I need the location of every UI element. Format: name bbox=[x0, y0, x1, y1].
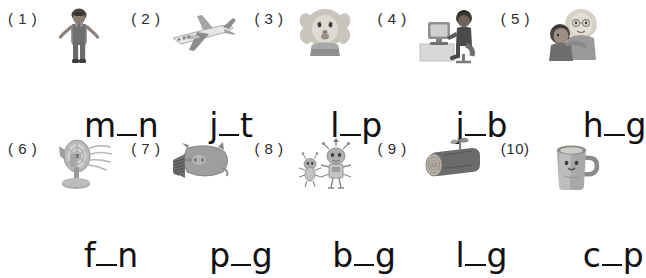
worksheet-row-1: ( 1 ) bbox=[0, 0, 616, 129]
word-prefix-10: c bbox=[583, 236, 601, 275]
word-blank-9[interactable] bbox=[465, 264, 485, 266]
word-prefix-9: l bbox=[456, 236, 465, 275]
word-6: fn bbox=[0, 196, 123, 278]
item-number-2: ( 2 ) bbox=[131, 11, 160, 26]
item-number-10: (10) bbox=[501, 141, 530, 156]
item-number-9: ( 9 ) bbox=[378, 141, 407, 156]
item-number-1: ( 1 ) bbox=[8, 11, 37, 26]
jet-icon bbox=[167, 4, 237, 68]
worksheet-item-10[interactable]: (10) cp bbox=[493, 130, 616, 259]
word-prefix-8: b bbox=[332, 236, 353, 275]
worksheet-item-2[interactable]: ( 2 ) jt bbox=[123, 0, 246, 129]
lion-face-icon bbox=[290, 4, 360, 68]
worksheet-item-8[interactable]: ( 8 ) bbox=[246, 130, 369, 259]
word-prefix-7: p bbox=[209, 236, 230, 275]
item-number-5: ( 5 ) bbox=[501, 11, 530, 26]
worksheet-item-3[interactable]: ( 3 ) bbox=[246, 0, 369, 129]
worksheet-item-7[interactable]: ( 7 ) bbox=[123, 130, 246, 259]
word-9: lg bbox=[370, 196, 495, 278]
worksheet-item-1[interactable]: ( 1 ) bbox=[0, 0, 123, 129]
man-icon bbox=[44, 4, 114, 68]
word-suffix-10: p bbox=[623, 236, 644, 275]
worksheet-item-9[interactable]: ( 9 ) lg bbox=[370, 130, 493, 259]
fan-icon bbox=[44, 134, 114, 198]
item-number-3: ( 3 ) bbox=[254, 11, 283, 26]
office-worker-icon bbox=[414, 4, 484, 68]
word-7: pg bbox=[123, 196, 248, 278]
item-number-7: ( 7 ) bbox=[131, 141, 160, 156]
hug-icon bbox=[537, 4, 607, 68]
pig-icon bbox=[167, 134, 237, 198]
word-suffix-5: g bbox=[625, 106, 646, 145]
worksheet-row-2: ( 6 ) bbox=[0, 130, 616, 259]
word-10: cp bbox=[493, 196, 622, 278]
word-8: bg bbox=[246, 196, 371, 278]
item-number-8: ( 8 ) bbox=[254, 141, 283, 156]
worksheet-item-6[interactable]: ( 6 ) bbox=[0, 130, 123, 259]
cup-icon bbox=[537, 134, 607, 198]
item-number-6: ( 6 ) bbox=[8, 141, 37, 156]
word-blank-6[interactable] bbox=[96, 264, 116, 266]
worksheet-item-4[interactable]: ( 4 ) bbox=[370, 0, 493, 129]
log-icon bbox=[414, 134, 484, 198]
bugs-icon bbox=[290, 134, 360, 198]
word-prefix-6: f bbox=[84, 236, 96, 275]
word-blank-10[interactable] bbox=[602, 264, 622, 266]
item-number-4: ( 4 ) bbox=[378, 11, 407, 26]
worksheet-item-5[interactable]: ( 5 ) bbox=[493, 0, 616, 129]
